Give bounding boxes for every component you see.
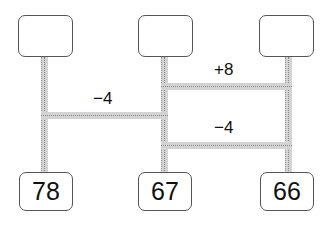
value-box-right: 66 xyxy=(260,172,314,211)
rung-middle-right-bottom xyxy=(161,142,292,149)
value-box-middle: 67 xyxy=(138,172,192,211)
value-box-left: 78 xyxy=(19,172,73,211)
answer-box-right[interactable] xyxy=(259,15,314,57)
operation-label: +8 xyxy=(214,60,233,80)
answer-box-left[interactable] xyxy=(18,15,73,57)
rung-middle-right-top xyxy=(161,83,292,90)
connector-right xyxy=(285,57,292,173)
answer-box-middle[interactable] xyxy=(138,15,193,57)
operation-label: −4 xyxy=(214,118,233,138)
operation-label: −4 xyxy=(93,89,112,109)
rung-left-middle xyxy=(41,112,168,119)
